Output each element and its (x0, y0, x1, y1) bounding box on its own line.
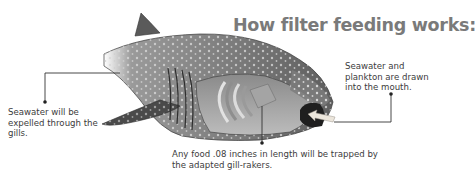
label-gills: Seawater will be expelled through the gi… (8, 107, 98, 139)
label-gill-rakers: Any food .08 inches in length will be tr… (172, 149, 382, 170)
callout-dot-mouth (389, 92, 393, 96)
callout-dot-gills (43, 100, 47, 104)
dorsal-fin (135, 13, 160, 36)
label-mouth: Seawater and plankton are drawn into the… (345, 61, 440, 93)
callout-dot-gill-rakers (260, 141, 264, 145)
diagram-title: How filter feeding works: (233, 15, 476, 35)
